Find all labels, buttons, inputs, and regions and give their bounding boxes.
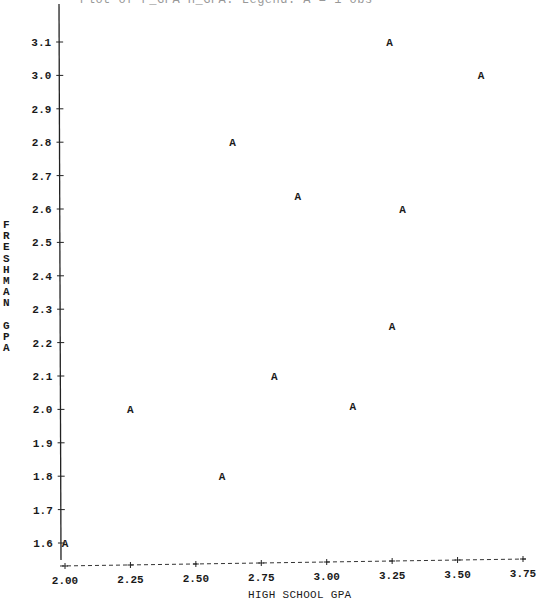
y-axis-label-letter: A bbox=[3, 343, 10, 354]
y-tick-label: 2.5 bbox=[32, 237, 52, 249]
x-tick-label: 2.75 bbox=[248, 572, 275, 584]
y-axis-label-letter: E bbox=[3, 242, 10, 253]
y-tick-label: 1.9 bbox=[33, 438, 53, 450]
y-tick-label: 2.3 bbox=[32, 304, 52, 316]
y-tick-label: 2.1 bbox=[33, 371, 53, 383]
x-tick-label: 3.00 bbox=[314, 571, 340, 583]
x-tick-label: 2.25 bbox=[117, 574, 144, 586]
data-point-marker: A bbox=[389, 321, 396, 333]
data-point-marker: A bbox=[350, 401, 357, 413]
data-point-marker: A bbox=[478, 70, 485, 82]
y-tick-label: 2.9 bbox=[32, 104, 52, 116]
x-tick-label: 2.00 bbox=[52, 575, 78, 587]
y-tick-label: 2.0 bbox=[33, 404, 53, 416]
scatter-plot: 1.61.71.81.92.02.12.22.32.42.52.62.72.82… bbox=[0, 0, 537, 603]
y-tick-label: 2.2 bbox=[32, 338, 52, 350]
y-tick-label: 2.7 bbox=[32, 171, 52, 183]
y-tick-label: 3.1 bbox=[31, 37, 51, 49]
data-point-marker: A bbox=[295, 191, 302, 203]
y-tick-label: 1.6 bbox=[33, 538, 53, 550]
y-axis-label-letter: N bbox=[3, 298, 10, 309]
y-tick-label: 2.4 bbox=[32, 271, 52, 283]
y-tick-label: 3.0 bbox=[31, 70, 51, 82]
data-point-marker: A bbox=[271, 371, 278, 383]
y-tick-label: 2.8 bbox=[32, 137, 52, 149]
data-point-marker: A bbox=[219, 471, 226, 483]
data-point-marker: A bbox=[399, 204, 406, 216]
x-axis-label: HIGH SCHOOL GPA bbox=[248, 589, 352, 601]
data-point-marker: A bbox=[386, 37, 393, 49]
data-point-marker: A bbox=[127, 404, 134, 416]
y-tick-label: 1.7 bbox=[33, 505, 53, 517]
x-tick-label: 3.50 bbox=[444, 569, 470, 581]
data-point-marker: A bbox=[229, 137, 236, 149]
y-tick-label: 1.8 bbox=[33, 471, 53, 483]
y-axis-label-letter: S bbox=[3, 254, 10, 265]
x-tick-label: 2.50 bbox=[183, 573, 209, 585]
y-tick-label: 2.6 bbox=[32, 204, 52, 216]
x-tick-label: 3.25 bbox=[379, 570, 406, 582]
x-tick-label: 3.75 bbox=[510, 568, 537, 580]
data-point-marker: A bbox=[62, 538, 69, 550]
